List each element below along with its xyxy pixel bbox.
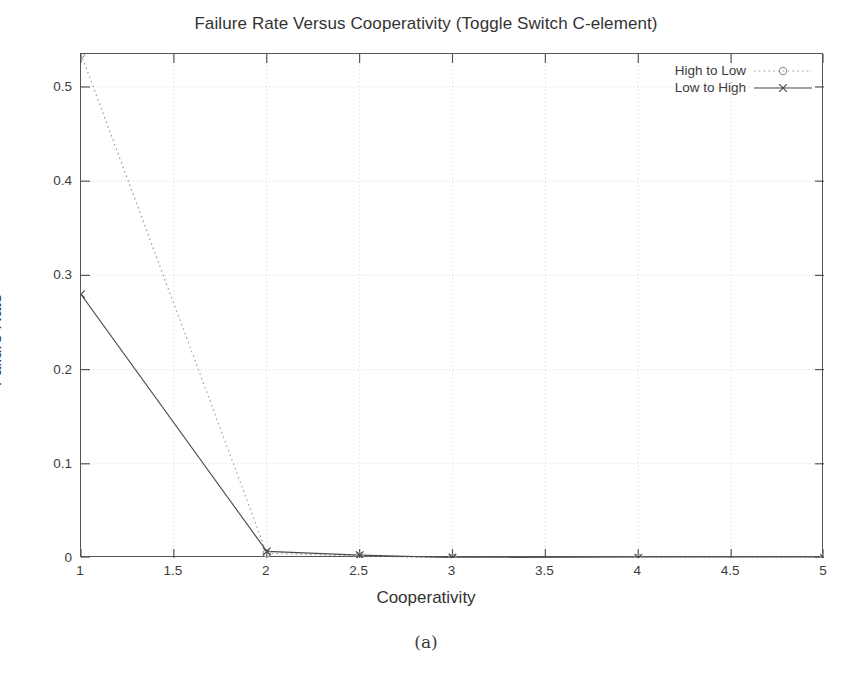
- chart-title: Failure Rate Versus Cooperativity (Toggl…: [0, 14, 852, 34]
- plot-svg: [81, 54, 824, 558]
- y-tick-label: 0.2: [16, 361, 72, 376]
- y-tick-label: 0.3: [16, 267, 72, 282]
- x-axis-tick-labels: 11.522.533.544.55: [80, 563, 823, 585]
- x-tick-label: 1.5: [143, 563, 203, 578]
- figure-container: Failure Rate Versus Cooperativity (Toggl…: [0, 0, 852, 675]
- chart-legend: High to LowLow to High: [648, 62, 814, 98]
- plot-area: [80, 53, 823, 557]
- legend-sample-solid-cross: [752, 81, 814, 95]
- x-tick-label: 4.5: [700, 563, 760, 578]
- x-tick-label: 1: [50, 563, 110, 578]
- x-tick-label: 4: [607, 563, 667, 578]
- x-tick-label: 5: [793, 563, 852, 578]
- y-axis-tick-labels: 00.10.20.30.40.5: [8, 53, 72, 557]
- y-tick-label: 0.4: [16, 173, 72, 188]
- grid-lines: [81, 54, 824, 558]
- x-tick-label: 2: [236, 563, 296, 578]
- legend-label: High to Low: [675, 63, 746, 78]
- y-tick-label: 0.5: [16, 78, 72, 93]
- x-tick-label: 2.5: [329, 563, 389, 578]
- legend-item-high-to-low[interactable]: High to Low: [648, 62, 814, 79]
- legend-sample-dotted-circle: [752, 64, 814, 78]
- x-axis-label: Cooperativity: [0, 588, 852, 608]
- figure-caption: (a): [0, 632, 852, 652]
- cross-marker-icon: [81, 290, 85, 298]
- legend-label: Low to High: [675, 80, 746, 95]
- x-tick-label: 3.5: [514, 563, 574, 578]
- y-axis-label: Failure Rate: [0, 240, 6, 440]
- x-tick-label: 3: [422, 563, 482, 578]
- legend-item-low-to-high[interactable]: Low to High: [648, 79, 814, 96]
- y-tick-label: 0.1: [16, 455, 72, 470]
